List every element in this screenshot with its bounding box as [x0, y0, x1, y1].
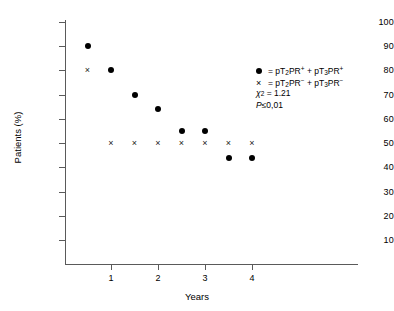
y-tick-mark: [59, 70, 65, 71]
x-tick-label: 2: [148, 274, 168, 283]
y-tick-mark: [59, 167, 65, 168]
legend-entry-series-a: = pT2PR+ + pT3PR+: [256, 63, 343, 75]
y-tick-label: 100: [342, 18, 394, 27]
y-tick-mark: [59, 119, 65, 120]
x-tick-mark: [158, 264, 159, 270]
y-tick-mark: [59, 216, 65, 217]
y-tick-mark: [59, 192, 65, 193]
y-tick-label: 90: [342, 42, 394, 51]
data-point-dot: [249, 155, 255, 161]
x-axis-line: [65, 264, 358, 265]
y-tick-label: 70: [342, 91, 394, 100]
chart-legend: = pT2PR+ + pT3PR+ × = pT2PR− + pT3PR− χ2…: [256, 63, 343, 111]
x-tick-label: 1: [101, 274, 121, 283]
data-point-cross: ×: [154, 139, 163, 148]
data-point-cross: ×: [107, 139, 116, 148]
x-tick-mark: [111, 264, 112, 270]
data-point-cross: ×: [130, 139, 139, 148]
filled-circle-marker-icon: [256, 65, 268, 77]
data-point-dot: [202, 128, 208, 134]
y-tick-label: 30: [342, 188, 394, 197]
data-point-cross: ×: [83, 66, 92, 75]
x-axis-title: Years: [0, 291, 394, 302]
data-point-dot: [132, 92, 138, 98]
y-tick-label: 60: [342, 115, 394, 124]
y-tick-label: 40: [342, 163, 394, 172]
x-tick-label: 3: [195, 274, 215, 283]
y-axis-title: Patients (%): [12, 88, 23, 188]
p-value-annotation: P≤0,01: [256, 99, 343, 111]
y-tick-mark: [59, 22, 65, 23]
x-tick-mark: [252, 264, 253, 270]
y-tick-label: 50: [342, 139, 394, 148]
data-point-dot: [155, 106, 161, 112]
data-point-cross: ×: [224, 139, 233, 148]
data-point-dot: [85, 43, 91, 49]
y-tick-label: 80: [342, 66, 394, 75]
y-tick-mark: [59, 95, 65, 96]
data-point-dot: [226, 155, 232, 161]
y-tick-label: 20: [342, 212, 394, 221]
data-point-cross: ×: [248, 139, 257, 148]
y-tick-label: 10: [342, 236, 394, 245]
scatter-chart-figure: 102030405060708090100 1234 Patients (%) …: [0, 0, 394, 311]
y-axis-line: [65, 20, 66, 265]
legend-entry-series-b: × = pT2PR− + pT3PR−: [256, 75, 343, 87]
data-point-dot: [108, 67, 114, 73]
data-point-dot: [179, 128, 185, 134]
data-point-cross: ×: [201, 139, 210, 148]
data-point-cross: ×: [177, 139, 186, 148]
y-tick-mark: [59, 143, 65, 144]
y-tick-mark: [59, 46, 65, 47]
x-tick-mark: [205, 264, 206, 270]
x-tick-label: 4: [242, 274, 262, 283]
y-tick-mark: [59, 240, 65, 241]
